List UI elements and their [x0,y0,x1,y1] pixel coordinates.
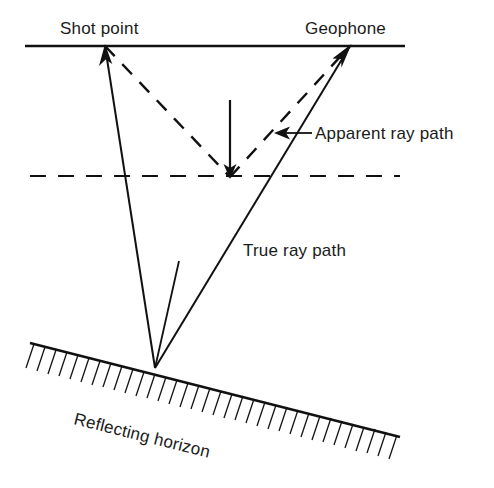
shot-point-label: Shot point [60,19,139,38]
diagram-canvas: Shot point Geophone Apparent ray path Tr… [0,0,494,488]
geophone-arrowhead-icon [333,44,352,68]
true-ray-downgoing-line [105,46,155,368]
true-ray-upgoing-line [155,46,350,368]
apparent-ray-downgoing-line [105,46,230,177]
shot-point-arrowhead-icon [99,44,112,66]
reflector-normal-line [155,261,179,368]
true-ray-path-label: True ray path [243,241,346,260]
apparent-ray-path-label: Apparent ray path [315,124,454,143]
seismic-ray-path-figure: Shot point Geophone Apparent ray path Tr… [0,0,494,488]
geophone-label: Geophone [305,19,386,38]
apparent-ray-upgoing-line [230,46,350,177]
reflector-hatching-group [26,344,397,459]
reflecting-horizon-label: Reflecting horizon [72,409,212,461]
